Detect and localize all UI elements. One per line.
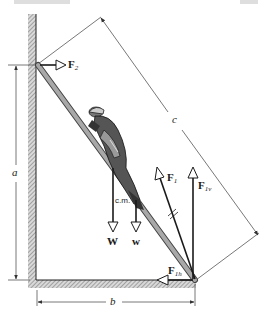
label-dimension-b: b [110, 296, 116, 307]
label-F1h: F1h [168, 265, 182, 278]
floor [28, 280, 196, 288]
diagram-drawing [0, 0, 268, 313]
label-dimension-c: c [172, 114, 177, 125]
dimension-c [38, 17, 259, 280]
label-F1: F1 [167, 172, 177, 185]
wall [28, 14, 36, 284]
label-dimension-a: a [12, 167, 18, 178]
label-W: W [107, 236, 118, 247]
man-climbing-figure [88, 107, 144, 210]
label-w: w [132, 236, 140, 247]
label-F2: F2 [68, 59, 78, 72]
label-F1v: F1v [198, 180, 211, 193]
ladder-diagram: F2 F1 F1v F1h W w c.m. a b c [0, 0, 268, 313]
label-center-of-mass: c.m. [115, 197, 130, 205]
